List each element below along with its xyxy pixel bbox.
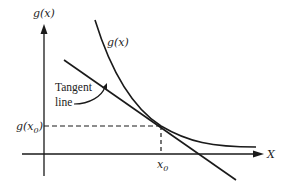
g-x0-label: g(x0): [16, 120, 43, 135]
y-axis-arrow-icon: [41, 24, 48, 34]
x-axis-label: X: [266, 148, 276, 161]
x-axis-arrow-icon: [253, 151, 264, 158]
x0-label: x0: [157, 158, 168, 173]
leader-arrow-icon: [102, 83, 107, 89]
tangent-line: [64, 60, 236, 180]
y-axis-label: g(x): [33, 7, 55, 20]
tangent-label-line1: Tangent: [55, 81, 93, 94]
curve-label: g(x): [107, 36, 129, 49]
tangent-line-diagram: g(x) X g(x) Tangent line g(x0) x0: [0, 0, 291, 187]
tangent-label-line2: line: [55, 96, 72, 108]
